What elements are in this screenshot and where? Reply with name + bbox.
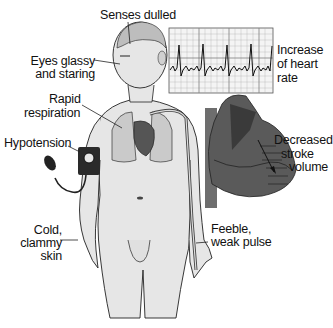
shock-symptoms-diagram: Senses dulled Eyes glassy and staring Ra… xyxy=(0,0,333,328)
label-senses-dulled: Senses dulled xyxy=(100,9,176,22)
label-pulse-line2: weak pulse xyxy=(211,236,272,249)
label-hypotension: Hypotension xyxy=(4,137,71,150)
label-heart-rate-line2: of heart xyxy=(277,58,318,71)
label-stroke-volume-line3: volume xyxy=(289,161,328,174)
label-respiration-line1: Rapid xyxy=(49,93,81,106)
label-heart-rate-line3: rate xyxy=(277,72,298,85)
ecg-strip xyxy=(169,28,273,93)
label-heart-rate-line1: Increase xyxy=(277,44,323,57)
label-stroke-volume-line1: Decreased xyxy=(274,134,333,147)
label-cold-line3: skin xyxy=(10,250,62,263)
label-respiration-line2: respiration xyxy=(24,107,80,120)
label-eyes-line2: and staring xyxy=(20,68,95,81)
